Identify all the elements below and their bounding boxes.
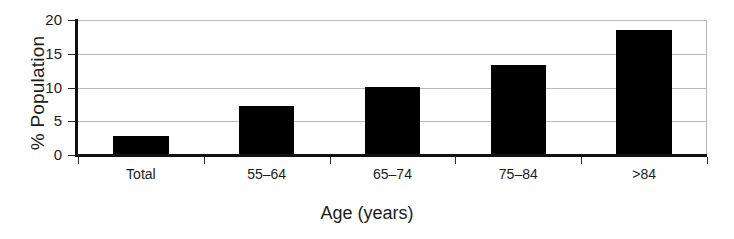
bar: [365, 87, 420, 155]
x-tick-label: 65–74: [330, 166, 456, 182]
x-tick-mark: [204, 157, 205, 164]
y-tick-label: 10: [22, 80, 62, 95]
y-tick-label: 0: [22, 147, 62, 162]
x-tick-label: 75–84: [455, 166, 581, 182]
x-tick-mark: [581, 157, 582, 164]
x-axis-title: Age (years): [0, 203, 734, 224]
y-tick-label: 5: [22, 113, 62, 128]
x-tick-mark: [707, 157, 708, 164]
y-tick-label: 15: [22, 46, 62, 61]
y-tick-mark: [68, 121, 76, 122]
gridline: [78, 54, 707, 55]
y-tick-label: 20: [22, 12, 62, 27]
y-tick-mark: [68, 20, 76, 21]
bar: [239, 106, 294, 155]
x-tick-label: >84: [581, 166, 707, 182]
y-tick-mark: [68, 54, 76, 55]
plot-area: [78, 20, 707, 155]
x-tick-mark: [330, 157, 331, 164]
x-tick-label: Total: [78, 166, 204, 182]
y-tick-mark: [68, 88, 76, 89]
gridline: [78, 20, 707, 21]
bar-chart-figure: % Population 05101520 Total55–6465–7475–…: [0, 0, 734, 239]
bar: [616, 30, 671, 155]
x-tick-mark: [455, 157, 456, 164]
y-tick-mark: [68, 155, 76, 156]
bar: [491, 65, 546, 155]
x-axis-spine: [75, 154, 707, 157]
x-tick-label: 55–64: [204, 166, 330, 182]
bar: [113, 136, 168, 155]
x-tick-mark: [78, 157, 79, 164]
